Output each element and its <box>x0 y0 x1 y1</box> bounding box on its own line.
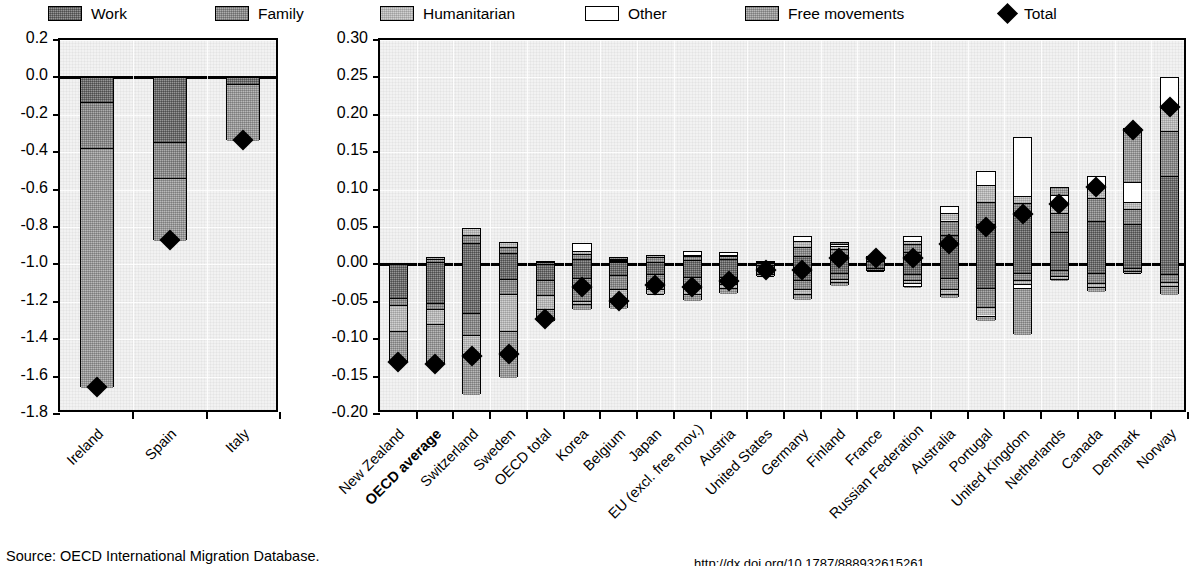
x-axis-tick <box>489 412 491 419</box>
y-axis-tick <box>373 151 380 153</box>
y-axis-tick <box>53 76 60 78</box>
bar-segment-stack <box>1123 264 1142 273</box>
legend-label-family: Family <box>258 6 304 21</box>
x-axis-tick <box>820 412 822 419</box>
x-axis-tick <box>1040 412 1042 419</box>
y-axis-tick <box>373 76 380 78</box>
bar-segment-free-movements <box>977 316 994 322</box>
y-axis-tick-label: 0.15 <box>316 142 368 158</box>
bar-segment-stack <box>536 261 555 265</box>
gridline <box>747 40 748 410</box>
bar-segment-work <box>573 259 590 266</box>
bar-segment-work <box>81 78 113 101</box>
bar-segment-humanitarian <box>500 294 517 331</box>
bar-segment-work <box>500 253 517 265</box>
bar-segment-family <box>977 288 994 307</box>
y-axis-tick <box>53 413 60 415</box>
x-axis-tick <box>1150 412 1152 419</box>
y-axis-tick <box>53 226 60 228</box>
legend-label-total: Total <box>1024 6 1057 21</box>
x-axis-tick <box>526 412 528 419</box>
bar-segment-work <box>647 265 664 274</box>
bar-segment-stack <box>1087 264 1106 290</box>
bar-segment-family <box>390 298 407 305</box>
bar-segment-stack <box>499 242 518 264</box>
bar-segment-humanitarian <box>1124 202 1141 209</box>
gridline <box>60 40 276 41</box>
y-axis-tick-label: -0.4 <box>0 142 48 158</box>
bar-segment-family <box>463 313 480 335</box>
bar-segment-family <box>537 280 554 295</box>
bar-segment-work <box>537 265 554 280</box>
legend-swatch-other-icon <box>585 6 619 21</box>
bar-segment-stack <box>1013 264 1032 334</box>
gridline <box>968 40 969 410</box>
bar-segment-stack <box>683 251 702 264</box>
bar-segment-free-movements <box>81 148 113 388</box>
bar-segment-family <box>463 235 480 242</box>
bar-segment-other <box>573 244 590 251</box>
y-axis-tick <box>373 39 380 41</box>
bar-segment-stack <box>940 264 959 296</box>
bar-segment-work <box>1088 221 1105 266</box>
legend-item-free-movements: Free movements <box>745 0 904 26</box>
gridline <box>527 40 528 410</box>
legend-swatch-humanitarian-icon <box>380 6 414 21</box>
gridline <box>490 40 491 410</box>
y-axis-tick-label: -1.2 <box>0 292 48 308</box>
bar-segment-work <box>941 265 958 278</box>
bar-segment-work <box>537 264 554 265</box>
bar-segment-family <box>1088 198 1105 220</box>
x-axis-tick <box>452 412 454 419</box>
gridline <box>784 40 785 410</box>
x-axis-tick <box>416 412 418 419</box>
gridline <box>380 77 1184 78</box>
bar-segment-stack <box>1013 137 1032 264</box>
bar-segment-free-movements <box>831 282 848 286</box>
x-axis-tick <box>563 412 565 419</box>
legend-label-work: Work <box>91 6 127 21</box>
y-axis-tick-label: 0.30 <box>316 30 368 46</box>
y-axis-tick <box>53 39 60 41</box>
bar-segment-family <box>941 278 958 289</box>
y-axis-tick <box>373 301 380 303</box>
x-axis-tick <box>783 412 785 419</box>
bar-segment-humanitarian <box>427 309 444 324</box>
y-axis-tick-label: 0.20 <box>316 105 368 121</box>
bar-segment-family <box>1124 209 1141 224</box>
bar-segment-stack <box>153 77 187 240</box>
legend-swatch-family-icon <box>215 6 249 21</box>
bar-segment-free-movements <box>1051 279 1068 281</box>
y-axis-tick-label: -0.05 <box>316 292 368 308</box>
y-axis-tick <box>53 301 60 303</box>
bar-segment-work <box>1051 232 1068 266</box>
bar-segment-stack <box>426 264 445 363</box>
x-axis-tick <box>967 412 969 419</box>
y-axis-tick-label: 0.00 <box>316 254 368 270</box>
bar-segment-stack <box>426 257 445 264</box>
y-axis-tick <box>373 413 380 415</box>
bar-segment-stack <box>80 77 114 386</box>
bar-segment-other <box>1124 182 1141 202</box>
legend: Work Family Humanitarian Other Free move… <box>0 0 1194 26</box>
x-axis-tick <box>206 412 208 419</box>
y-axis-tick-label: -0.10 <box>316 329 368 345</box>
legend-label-humanitarian: Humanitarian <box>423 6 515 21</box>
legend-swatch-free-movements-icon <box>745 6 779 21</box>
x-axis-tick <box>1114 412 1116 419</box>
bar-segment-free-movements <box>573 304 590 309</box>
bar-segment-work <box>1014 265 1031 272</box>
bar-segment-family <box>1051 213 1068 232</box>
legend-item-total: Total <box>1000 0 1057 26</box>
bar-segment-family <box>1014 273 1031 280</box>
x-axis-tick <box>636 412 638 419</box>
y-axis-tick-label: -0.20 <box>316 404 368 420</box>
gridline <box>674 40 675 410</box>
bar-segment-family <box>794 247 811 256</box>
y-axis-tick <box>53 114 60 116</box>
bar-segment-work <box>390 265 407 297</box>
bar-segment-work <box>463 265 480 312</box>
bar-segment-stack <box>1050 264 1069 280</box>
bar-segment-humanitarian <box>390 305 407 331</box>
bar-segment-work <box>684 265 701 277</box>
